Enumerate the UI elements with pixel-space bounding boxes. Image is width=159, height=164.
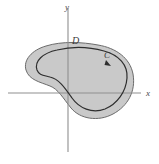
x-axis-label: x	[145, 88, 150, 98]
curve-c-label: C	[104, 50, 111, 60]
region-d-label: D	[71, 35, 80, 46]
figure-svg: D C x y	[0, 0, 159, 164]
region-d-shape	[25, 43, 133, 119]
math-figure-container: D C x y	[0, 0, 159, 164]
y-axis-label: y	[64, 2, 69, 12]
